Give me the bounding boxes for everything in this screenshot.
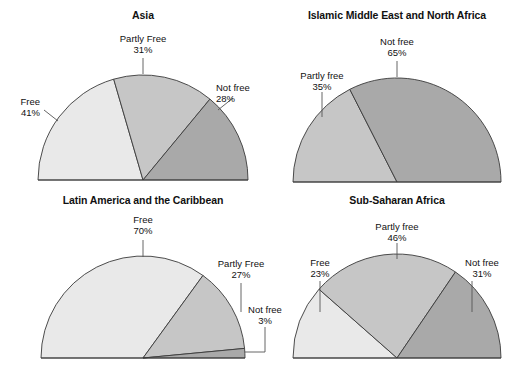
label-text: Not free	[465, 257, 499, 268]
label-text: Free	[310, 257, 330, 268]
label-ssa-free: Free 23%	[310, 257, 330, 279]
label-ssa-not-free: Not free 31%	[465, 257, 499, 279]
label-text: Partly free	[375, 221, 418, 232]
label-value: 23%	[310, 268, 329, 279]
label-value: 31%	[472, 268, 491, 279]
chart-svg-sub-saharan-africa	[0, 0, 517, 369]
label-value: 46%	[387, 232, 406, 243]
label-ssa-partly-free: Partly free 46%	[375, 221, 418, 243]
